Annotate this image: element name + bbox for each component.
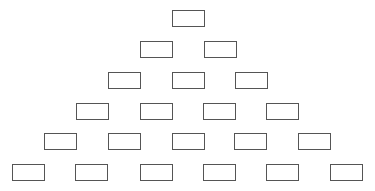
pyramid-box bbox=[140, 103, 173, 120]
pyramid-box bbox=[203, 164, 236, 181]
pyramid-box bbox=[172, 72, 205, 89]
pyramid-box bbox=[172, 10, 205, 27]
pyramid-box bbox=[266, 164, 299, 181]
pyramid-box bbox=[298, 133, 331, 150]
pyramid-box bbox=[108, 133, 141, 150]
pyramid-box bbox=[203, 103, 236, 120]
pyramid-box bbox=[140, 41, 173, 58]
pyramid-box bbox=[44, 133, 77, 150]
pyramid-box bbox=[235, 72, 268, 89]
pyramid-box bbox=[330, 164, 363, 181]
pyramid-box bbox=[266, 103, 299, 120]
pyramid-box bbox=[75, 164, 108, 181]
pyramid-box bbox=[234, 133, 267, 150]
pyramid-box bbox=[108, 72, 141, 89]
pyramid-box bbox=[172, 133, 205, 150]
pyramid-box bbox=[140, 164, 173, 181]
pyramid-box bbox=[12, 164, 45, 181]
pyramid-box bbox=[76, 103, 109, 120]
pyramid-box bbox=[204, 41, 237, 58]
